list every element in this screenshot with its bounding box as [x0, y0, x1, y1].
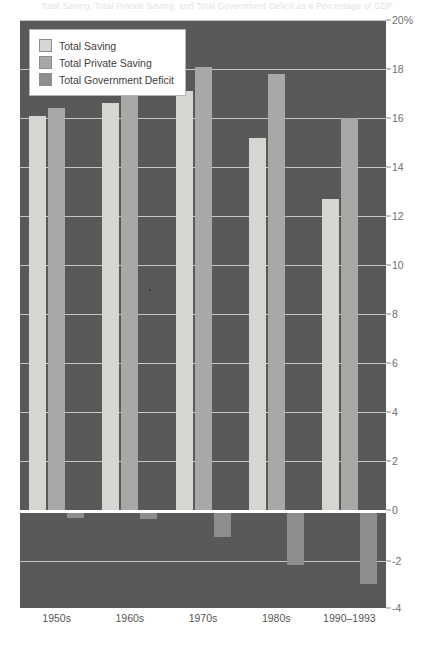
bar-total-private-saving — [121, 94, 138, 511]
y-tick-label: 20% — [392, 14, 413, 26]
y-tick-label: 0 — [392, 504, 398, 516]
chart-title-clipped: Total Saving, Total Private Saving, and … — [0, 0, 437, 13]
y-tick-mark — [386, 363, 391, 364]
scan-artifact — [149, 289, 151, 291]
y-tick-label: 4 — [392, 406, 398, 418]
legend-label: Total Government Deficit — [59, 74, 174, 86]
x-tick-label-3: 1980s — [262, 612, 291, 624]
bar-total-government-deficit — [287, 513, 304, 565]
y-tick-label: 18 — [392, 63, 404, 75]
y-tick-label: 10 — [392, 259, 404, 271]
bar-total-private-saving — [195, 67, 212, 510]
y-tick-mark — [386, 314, 391, 315]
plot-area-negative — [20, 513, 386, 608]
legend-item-total_private_saving[interactable]: Total Private Saving — [39, 54, 174, 71]
legend-swatch-icon — [39, 56, 52, 69]
y-tick-label: 6 — [392, 357, 398, 369]
y-tick-label: 16 — [392, 112, 404, 124]
legend-swatch-icon — [39, 39, 52, 52]
legend-label: Total Private Saving — [59, 57, 152, 69]
y-tick-label: 8 — [392, 308, 398, 320]
gridline — [20, 561, 386, 562]
y-tick-mark — [386, 167, 391, 168]
legend-item-total_saving[interactable]: Total Saving — [39, 37, 174, 54]
bar-total-government-deficit — [360, 513, 377, 584]
bar-total-private-saving — [268, 74, 285, 510]
x-tick-label-4: 1990–1993 — [323, 612, 376, 624]
y-tick-label: 2 — [392, 455, 398, 467]
bar-total-saving — [102, 103, 119, 510]
bar-total-private-saving — [48, 108, 65, 510]
y-tick-mark — [386, 69, 391, 70]
chart-legend: Total SavingTotal Private SavingTotal Go… — [29, 29, 186, 96]
legend-item-total_government_deficit[interactable]: Total Government Deficit — [39, 71, 174, 88]
bar-total-saving — [176, 91, 193, 510]
bar-total-government-deficit — [214, 513, 231, 537]
bar-total-private-saving — [341, 118, 358, 510]
y-tick-mark — [386, 560, 391, 561]
y-tick-mark — [386, 118, 391, 119]
y-tick-mark — [386, 412, 391, 413]
y-tick-mark — [386, 608, 391, 609]
y-tick-label: 14 — [392, 161, 404, 173]
legend-swatch-icon — [39, 73, 52, 86]
bar-total-saving — [29, 116, 46, 510]
x-tick-label-1: 1960s — [115, 612, 144, 624]
bar-total-government-deficit — [67, 513, 84, 518]
y-tick-mark — [386, 216, 391, 217]
y-tick-label: -4 — [392, 602, 401, 614]
x-tick-label-0: 1950s — [42, 612, 71, 624]
y-tick-mark — [386, 510, 391, 511]
chart-figure: Total Saving, Total Private Saving, and … — [0, 0, 437, 647]
y-tick-label: 12 — [392, 210, 404, 222]
bar-total-saving — [322, 199, 339, 510]
y-tick-label: -2 — [392, 555, 401, 567]
y-tick-mark — [386, 461, 391, 462]
bar-total-saving — [249, 138, 266, 510]
y-tick-mark — [386, 20, 391, 21]
bar-total-government-deficit — [140, 513, 157, 519]
legend-label: Total Saving — [59, 40, 116, 52]
gridline — [20, 20, 386, 21]
y-tick-mark — [386, 265, 391, 266]
x-tick-label-2: 1970s — [189, 612, 218, 624]
